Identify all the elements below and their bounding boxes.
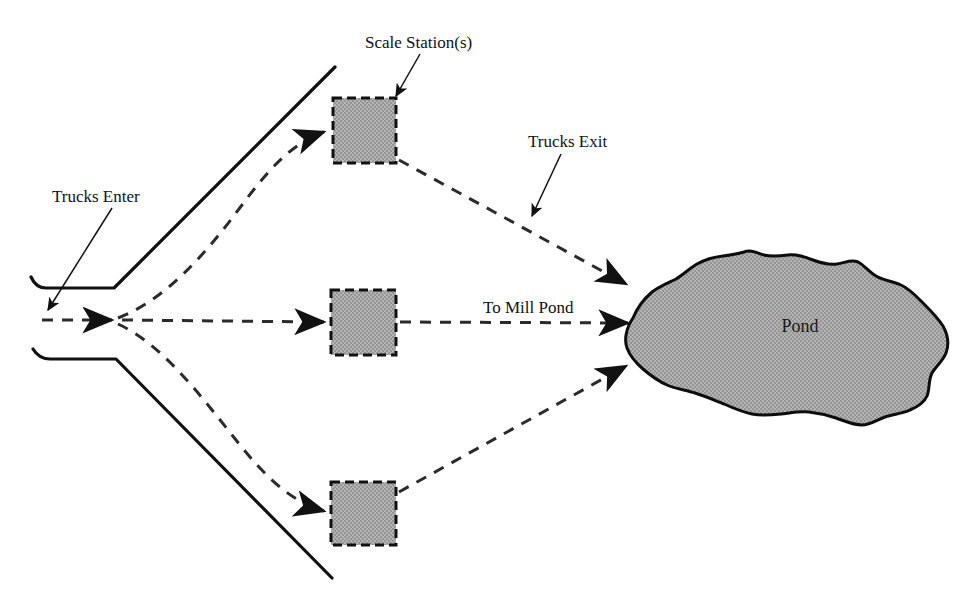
to-mill-pond-label: To Mill Pond (483, 298, 574, 317)
route-top-station-out (399, 160, 626, 284)
pond-label: Pond (781, 316, 818, 336)
diagram-canvas: Pond Trucks Enter Scale Station(s) Truck… (0, 0, 976, 605)
trucks-exit-leader (532, 154, 561, 216)
trucks-exit-label: Trucks Exit (528, 132, 607, 151)
mill-pond-diagram: Pond Trucks Enter Scale Station(s) Truck… (0, 0, 976, 605)
route-middle-station-out (400, 322, 628, 323)
route-top-station-in (118, 132, 324, 318)
mill-pond[interactable] (626, 251, 948, 425)
lower-road-edge (33, 349, 332, 578)
scale-stations-leader (396, 54, 420, 96)
scale-stations-label: Scale Station(s) (365, 33, 472, 52)
scale-station-top[interactable] (333, 98, 396, 163)
route-bottom-station-out (399, 366, 626, 492)
trucks-enter-label: Trucks Enter (52, 187, 140, 206)
upper-road-edge (31, 67, 335, 288)
scale-stations-group (331, 98, 396, 545)
mill-pond-group: Pond (626, 251, 948, 425)
scale-station-middle[interactable] (331, 290, 396, 355)
route-middle-station-in (122, 320, 324, 322)
scale-station-bottom[interactable] (331, 482, 396, 545)
route-bottom-station-in (118, 324, 324, 511)
trucks-enter-leader (48, 208, 112, 310)
